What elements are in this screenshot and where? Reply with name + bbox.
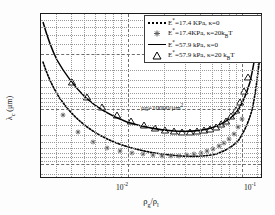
triangle-marker-icon bbox=[146, 50, 168, 61]
dotted-line-icon bbox=[146, 17, 168, 28]
star-marker-icon bbox=[146, 28, 168, 39]
x-axis-title: ρg/ρl bbox=[143, 196, 159, 208]
plot-annotation: ρg=10000/μm2 bbox=[141, 102, 183, 112]
legend-label-3: E*=57.9 kPa, κ=20 kBT bbox=[168, 47, 234, 64]
figure-chart: λc (μm) 101 100 10-1 10-2 10-1 ρg/ρl bbox=[0, 0, 275, 215]
x-tick-label-10e-1: 10-1 bbox=[244, 181, 256, 192]
legend-box[interactable]: E*=17.4 KPa, κ=0 E*=17.4KPa, κ=20kBT E*=… bbox=[144, 15, 262, 63]
y-axis-title: λc (μm) bbox=[5, 95, 16, 119]
x-tick-label-10e-2: 10-2 bbox=[116, 181, 128, 192]
legend-item-3[interactable]: E*=57.9 kPa, κ=20 kBT bbox=[146, 50, 259, 61]
solid-line-icon bbox=[146, 39, 168, 50]
